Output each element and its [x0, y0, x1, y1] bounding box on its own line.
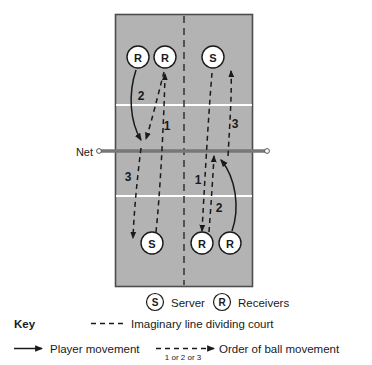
order-label-bottom-right: 2	[216, 201, 223, 215]
player-letter: R	[226, 238, 234, 250]
player-token-top-server: S	[202, 46, 224, 68]
player-letter: S	[148, 238, 155, 250]
player-token-top-left-receiver: R	[127, 46, 149, 68]
legend-player-movement-label: Player movement	[50, 343, 140, 355]
legend-receiver-label: Receivers	[238, 297, 289, 309]
player-letter: R	[161, 52, 169, 64]
order-label-bottom-left: 3	[125, 170, 132, 184]
legend-movement-row: Player movement 1 or 2 or 3 Order of bal…	[14, 343, 340, 362]
legend-ball-movement-label: Order of ball movement	[219, 343, 340, 355]
player-letter: R	[198, 238, 206, 250]
legend-ball-order-caption: 1 or 2 or 3	[165, 353, 202, 362]
legend-server-label: Server	[171, 297, 205, 309]
player-token-bottom-right-receiver: R	[219, 232, 241, 254]
diagram-svg: Net 2 1 3 3 1 2	[0, 0, 372, 365]
player-letter: R	[134, 52, 142, 64]
legend-server-symbol: S	[152, 297, 159, 308]
net-post-right-icon	[265, 149, 270, 154]
net-label: Net	[76, 146, 93, 158]
order-label-top-right: 3	[232, 117, 239, 131]
legend-receiver-symbol: R	[218, 297, 226, 308]
player-token-top-inner-receiver: R	[154, 46, 176, 68]
player-token-bottom-inner-receiver: R	[191, 232, 213, 254]
court-diagram-figure: Net 2 1 3 3 1 2	[0, 0, 372, 365]
player-letter: S	[209, 52, 216, 64]
legend-imaginary-line-label: Imaginary line dividing court	[131, 318, 274, 330]
player-token-bottom-server: S	[141, 232, 163, 254]
legend-roles-row: S Server R Receivers	[147, 294, 290, 311]
legend-key-label: Key	[14, 318, 36, 330]
order-label-top-left: 2	[138, 89, 145, 103]
net-post-left-icon	[97, 149, 102, 154]
order-label-top-mid: 1	[164, 119, 171, 133]
order-label-bottom-mid: 1	[195, 173, 202, 187]
legend-imaginary-line-row: Key Imaginary line dividing court	[14, 318, 274, 330]
